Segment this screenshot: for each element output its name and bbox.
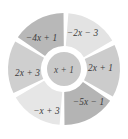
sector-bottom-right-label: −5x − 1: [73, 97, 104, 107]
sector-left-label: 2x + 3: [15, 68, 40, 78]
hub-center-label: x + 1: [53, 65, 74, 75]
sector-right-label: 2x + 1: [88, 63, 113, 73]
sector-bottom-left-label: −x + 3: [33, 106, 60, 116]
sector-top-right-label: −2x − 3: [67, 28, 99, 38]
wheel-diagram-svg: −2x − 3 2x + 1 −5x − 1 −x + 3 2x + 3 −4x…: [0, 0, 128, 139]
sector-wheel-figure: −2x − 3 2x + 1 −5x − 1 −x + 3 2x + 3 −4x…: [0, 0, 128, 139]
sector-top-left-label: −4x + 1: [26, 33, 57, 43]
